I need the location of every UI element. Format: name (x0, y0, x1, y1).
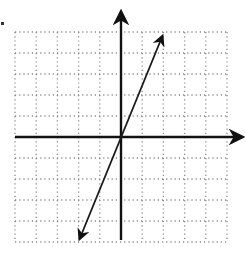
coordinate-plane (0, 0, 246, 257)
axes (15, 12, 242, 240)
